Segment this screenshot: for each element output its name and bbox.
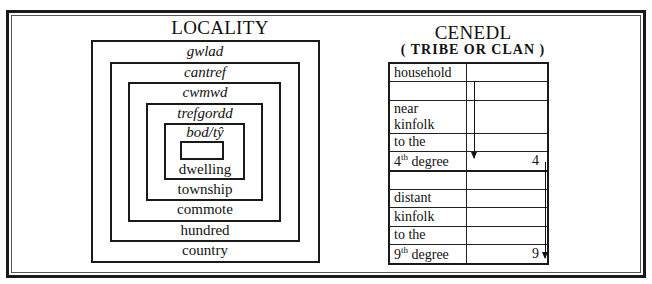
row-label: household bbox=[389, 63, 466, 82]
degree-number: 9 bbox=[394, 247, 401, 262]
table-row: to the bbox=[389, 226, 548, 245]
degree-number: 4 bbox=[394, 154, 401, 169]
row-label bbox=[389, 82, 466, 101]
arrow-down-icon bbox=[474, 82, 475, 158]
row-label: distant bbox=[389, 189, 466, 208]
label-dwelling: dwelling bbox=[105, 161, 305, 178]
row-value bbox=[466, 63, 548, 82]
row-value bbox=[466, 133, 548, 152]
dwelling-core-box bbox=[180, 141, 224, 160]
row-label: near kinfolk bbox=[389, 100, 466, 133]
label-gwlad: gwlad bbox=[105, 43, 305, 60]
degree-text: degree bbox=[408, 247, 449, 262]
row-label: to the bbox=[389, 226, 466, 245]
row-value bbox=[466, 82, 548, 101]
degree-text: degree bbox=[408, 154, 449, 169]
degree-suffix: th bbox=[401, 245, 408, 255]
cenedl-table: household near kinfolk to the 4th degree… bbox=[388, 62, 549, 265]
label-bod-ty: bod/tŷ bbox=[105, 124, 305, 141]
table-row: distant bbox=[389, 189, 548, 208]
row-value bbox=[466, 100, 548, 133]
label-cantref: cantref bbox=[105, 64, 305, 81]
arrow-down-icon bbox=[545, 162, 546, 258]
row-value bbox=[466, 171, 548, 190]
row-value: 4 bbox=[466, 152, 548, 171]
table-row: near kinfolk bbox=[389, 100, 548, 133]
row-label: to the bbox=[389, 133, 466, 152]
degree-suffix: th bbox=[401, 152, 408, 162]
row-label: 9th degree bbox=[389, 245, 466, 264]
row-value bbox=[466, 226, 548, 245]
table-row bbox=[389, 171, 548, 190]
row-value: 9 bbox=[466, 245, 548, 264]
label-trefgordd: trefgordd bbox=[105, 105, 305, 122]
table-row bbox=[389, 82, 548, 101]
row-value bbox=[466, 208, 548, 227]
label-hundred: hundred bbox=[105, 222, 305, 239]
label-commote: commote bbox=[105, 201, 305, 218]
table-row: household bbox=[389, 63, 548, 82]
label-township: township bbox=[105, 181, 305, 198]
row-label bbox=[389, 171, 466, 190]
label-cwmwd: cwmwd bbox=[105, 84, 305, 101]
table-row: kinfolk bbox=[389, 208, 548, 227]
cenedl-title: CENEDL bbox=[388, 22, 558, 44]
cenedl-subtitle: ( TRIBE OR CLAN ) bbox=[388, 42, 558, 58]
table-row: 9th degree9 bbox=[389, 245, 548, 264]
locality-title: LOCALITY bbox=[120, 17, 320, 39]
table-row: to the bbox=[389, 133, 548, 152]
label-country: country bbox=[105, 242, 305, 259]
row-label: 4th degree bbox=[389, 152, 466, 171]
row-label: kinfolk bbox=[389, 208, 466, 227]
row-value bbox=[466, 189, 548, 208]
table-row: 4th degree4 bbox=[389, 152, 548, 171]
